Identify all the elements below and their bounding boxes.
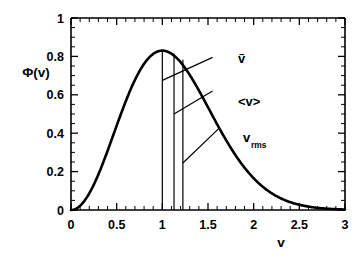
marker-label-most-probable-speed: ṽ [238,51,246,66]
x-tick-label: 1 [159,218,166,232]
y-tick-label: 1 [57,12,64,26]
chart-page: 00.511.522.5300.20.40.60.81 v Φ(v) ṽ <v>… [0,0,363,258]
x-tick-label: 0.5 [108,218,125,232]
leader-line-most-probable-speed [162,57,212,80]
marker-label-mean-speed: <v> [238,94,261,109]
marker-label-rms-speed: v [243,130,251,145]
x-tick-label: 2.5 [291,218,308,232]
x-tick-label: 3 [342,218,349,232]
marker-label-rms-subscript: rms [251,140,267,150]
x-tick-label: 2 [250,218,257,232]
y-tick-label: 0.6 [47,88,64,102]
speed-marker-lines [162,51,183,210]
y-tick-label: 0 [57,204,64,218]
x-axis-title: v [277,235,285,250]
distribution-curve [71,51,345,210]
plot-axes [71,18,345,210]
y-tick-label: 0.2 [47,165,64,179]
x-tick-label: 1.5 [199,218,216,232]
y-tick-label: 0.8 [47,50,64,64]
x-tick-label: 0 [68,218,75,232]
maxwell-boltzmann-distribution-chart: 00.511.522.5300.20.40.60.81 v Φ(v) ṽ <v>… [0,0,363,258]
axis-ticks [71,18,345,210]
leader-line-rms-speed [183,128,219,163]
axis-tick-labels: 00.511.522.5300.20.40.60.81 [47,12,349,233]
y-tick-label: 0.4 [47,127,64,141]
y-axis-title: Φ(v) [22,65,50,80]
